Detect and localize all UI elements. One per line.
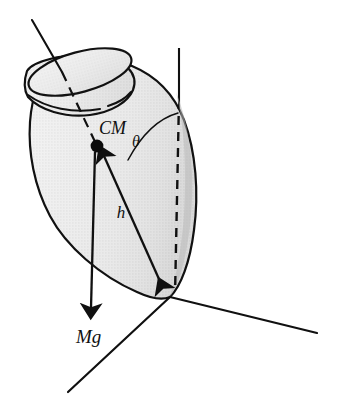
spinning-top-diagram: CM θ h Mg bbox=[0, 0, 337, 420]
figure-root: CM θ h Mg bbox=[0, 0, 337, 420]
label-weight-force: Mg bbox=[75, 326, 101, 347]
label-tilt-angle: θ bbox=[132, 133, 140, 150]
center-of-mass-dot bbox=[91, 140, 104, 153]
label-center-of-mass: CM bbox=[99, 118, 127, 138]
label-lever-arm: h bbox=[117, 203, 126, 222]
